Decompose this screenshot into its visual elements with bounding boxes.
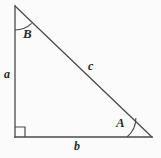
triangle-drawing <box>0 0 161 158</box>
triangle-side-c-line <box>15 6 152 137</box>
angle-B-label: B <box>23 27 32 40</box>
right-angle-square-icon <box>15 127 25 137</box>
side-b-label: b <box>74 140 80 152</box>
angle-A-label: A <box>116 116 125 129</box>
side-a-label: a <box>4 68 10 80</box>
right-triangle-diagram: B A a b c <box>0 0 161 158</box>
side-c-label: c <box>88 60 93 72</box>
